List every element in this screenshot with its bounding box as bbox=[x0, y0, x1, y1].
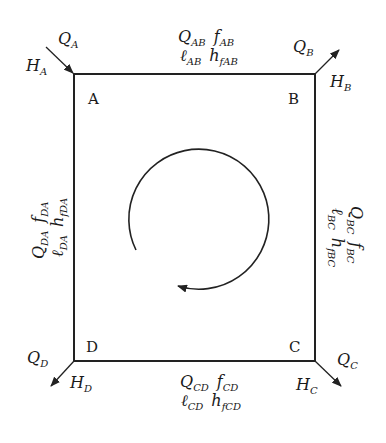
node-c-head: HC bbox=[295, 375, 318, 396]
node-label-d: D bbox=[86, 338, 98, 356]
pipe-cd-length-headloss: ℓCDhfCD bbox=[181, 391, 241, 412]
node-label-b: B bbox=[288, 90, 299, 108]
node-b-flow: QB bbox=[293, 37, 313, 58]
pipe-da-flow-friction: QDAfDA bbox=[29, 201, 50, 259]
loop-rectangle bbox=[74, 74, 315, 361]
pipe-da-labels: QDAfDA ℓDAhfDA bbox=[29, 198, 69, 259]
pipe-bc-length-headloss: ℓBChfBC bbox=[326, 208, 347, 267]
inflow-arrow-a bbox=[46, 47, 73, 73]
node-c-flow: QC bbox=[337, 350, 358, 371]
pipe-ab-length-headloss: ℓABhfAB bbox=[180, 46, 238, 67]
node-b-head: HB bbox=[329, 72, 351, 93]
pipe-da-length-headloss: ℓDAhfDA bbox=[48, 198, 69, 257]
pipe-bc-labels: QBCfBC ℓBChfBC bbox=[326, 206, 366, 267]
node-label-a: A bbox=[87, 90, 99, 108]
node-label-c: C bbox=[289, 338, 300, 356]
node-d-head: HD bbox=[69, 373, 92, 394]
pipe-bc-flow-friction: QBCfBC bbox=[345, 206, 366, 264]
clockwise-circulation-arrow bbox=[129, 149, 269, 289]
pipe-cd-flow-friction: QCDfCD bbox=[180, 372, 238, 393]
pipe-loop-diagram: A B C D QA HA QB HB QC HC QD HD QABfAB ℓ… bbox=[0, 0, 386, 443]
outflow-arrow-b bbox=[315, 50, 339, 74]
node-d-flow: QD bbox=[27, 348, 48, 369]
node-a-flow: QA bbox=[58, 29, 78, 50]
pipe-ab-flow-friction: QABfAB bbox=[178, 27, 234, 48]
node-a-head: HA bbox=[25, 56, 47, 77]
